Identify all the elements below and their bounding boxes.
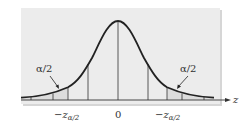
right-critical-label: −zα/2 bbox=[155, 109, 181, 122]
left-tail-label: α/2 bbox=[36, 63, 52, 74]
axis-label: z bbox=[232, 94, 239, 105]
right-tail-label: α/2 bbox=[180, 63, 196, 74]
normal-distribution-diagram: α/2 α/2 −zα/2 0 −zα/2 z bbox=[0, 0, 249, 131]
left-critical-label: −zα/2 bbox=[54, 109, 80, 122]
axis-arrow-icon bbox=[225, 98, 231, 102]
center-label: 0 bbox=[115, 109, 121, 120]
